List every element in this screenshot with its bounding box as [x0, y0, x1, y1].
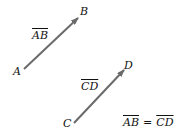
- vector-cd-arrow: [74, 70, 124, 123]
- point-a-label: A: [13, 66, 21, 77]
- vector-diagram: A B AB C D CD AB = CD: [0, 0, 177, 133]
- vector-cd-label: CD: [81, 81, 98, 92]
- equation-op: =: [143, 116, 152, 129]
- equation: AB = CD: [123, 112, 174, 130]
- vector-ab-arrow: [24, 18, 78, 69]
- point-b-label: B: [80, 6, 88, 17]
- equation-right: CD: [156, 116, 173, 129]
- point-c-label: C: [63, 118, 71, 129]
- equation-left: AB: [123, 116, 139, 129]
- vector-ab-label: AB: [32, 30, 48, 41]
- point-d-label: D: [124, 60, 133, 71]
